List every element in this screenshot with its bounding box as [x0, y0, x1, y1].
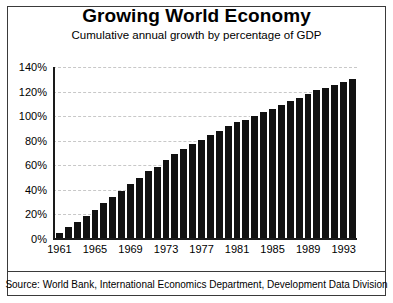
x-axis-tick-label: 1993	[331, 243, 355, 255]
bar	[144, 171, 153, 239]
bar	[286, 101, 295, 239]
bar	[91, 210, 100, 239]
y-axis-tick-label: 100%	[19, 110, 47, 122]
bar	[197, 140, 206, 240]
chart-header: Growing World Economy Cumulative annual …	[0, 4, 393, 43]
y-axis-tick-label: 80%	[25, 135, 47, 147]
y-axis-tick-label: 0%	[31, 233, 47, 245]
x-axis-tick-label: 1961	[47, 243, 71, 255]
y-axis-tick-label: 40%	[25, 184, 47, 196]
y-axis-tick-label: 20%	[25, 208, 47, 220]
chart-subtitle: Cumulative annual growth by percentage o…	[0, 27, 393, 43]
source-note: Source: World Bank, International Econom…	[0, 279, 393, 290]
plot-area: 0%20%40%60%80%100%120%140%	[53, 67, 357, 239]
x-axis-tick-label: 1965	[83, 243, 107, 255]
bar	[312, 90, 321, 239]
x-axis-tick-labels: 196119651969197319771981198519891993	[53, 243, 357, 259]
bar	[348, 79, 357, 239]
bar	[224, 126, 233, 239]
x-axis-tick-label: 1985	[260, 243, 284, 255]
bar-series	[55, 67, 357, 239]
footer-divider	[7, 271, 386, 272]
bar	[135, 178, 144, 239]
bar	[304, 94, 313, 239]
bar	[99, 203, 108, 239]
chart-title: Growing World Economy	[0, 4, 393, 27]
bar	[321, 88, 330, 239]
bar	[330, 85, 339, 239]
bar	[250, 116, 259, 239]
chart-figure: Growing World Economy Cumulative annual …	[0, 0, 393, 303]
bar	[82, 216, 91, 239]
x-axis-line	[53, 238, 357, 240]
bar	[117, 191, 126, 239]
bar	[126, 184, 135, 239]
bar	[153, 167, 162, 239]
bar	[268, 109, 277, 239]
bar	[241, 120, 250, 239]
x-axis-tick-label: 1973	[154, 243, 178, 255]
bar	[206, 135, 215, 239]
bar	[108, 197, 117, 239]
bar	[188, 144, 197, 239]
x-axis-tick-label: 1969	[118, 243, 142, 255]
bar	[215, 131, 224, 239]
x-axis-tick-label: 1989	[296, 243, 320, 255]
x-axis-tick-label: 1977	[189, 243, 213, 255]
bar	[295, 98, 304, 239]
plot-inner: 0%20%40%60%80%100%120%140%	[53, 67, 357, 239]
bar	[179, 149, 188, 239]
x-axis-tick-label: 1981	[225, 243, 249, 255]
y-axis-tick-label: 60%	[25, 159, 47, 171]
bar	[277, 105, 286, 239]
bar	[339, 82, 348, 239]
y-axis-tick-label: 120%	[19, 86, 47, 98]
y-axis-tick-label: 140%	[19, 61, 47, 73]
bar	[162, 160, 171, 239]
bar	[73, 222, 82, 239]
bar	[170, 154, 179, 239]
bar	[259, 112, 268, 239]
bar	[233, 122, 242, 239]
y-axis-line	[53, 67, 55, 239]
